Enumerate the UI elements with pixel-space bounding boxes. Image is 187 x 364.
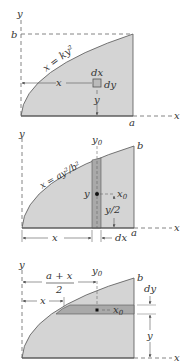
y-label: y <box>83 188 90 199</box>
dx-label: dx <box>115 232 127 243</box>
b-label: b <box>137 140 143 151</box>
y-half-label: y/2 <box>104 204 120 215</box>
y-axis-label: y <box>18 128 25 139</box>
element-dxdy <box>93 79 101 87</box>
shaded-area <box>21 34 133 116</box>
y0-label: y0 <box>91 265 103 278</box>
dx-label: dx <box>91 67 103 78</box>
panel-1: y b a x x = ky² x dx dy y <box>11 8 180 128</box>
panel-3: y a + x 2 y0 b dy x x0 y x <box>18 259 180 363</box>
a-label: a <box>129 117 135 128</box>
y-axis-label: y <box>18 259 25 270</box>
a-label: a <box>131 227 137 238</box>
shaded-area <box>22 146 134 228</box>
shaded-area <box>22 278 134 358</box>
panel-2: y y0 b x = ay²/b² y x0 y/2 a x x dx <box>18 128 180 243</box>
diagram-canvas: y b a x x = ky² x dx dy y y y0 b x = ay²… <box>0 0 187 364</box>
b-label: b <box>137 272 143 283</box>
b-label: b <box>11 29 17 40</box>
centroid-dot <box>95 192 99 196</box>
y-label: y <box>146 330 153 341</box>
y0-label: y0 <box>91 134 103 147</box>
y-label: y <box>93 94 100 105</box>
x-axis-label: x <box>174 222 180 233</box>
two-label: 2 <box>55 284 62 295</box>
x-label: x <box>52 232 58 243</box>
x-label: x <box>40 295 46 306</box>
x-axis-label: x <box>174 110 180 121</box>
x-axis-label: x <box>174 352 180 363</box>
a-plus-x-label: a + x <box>46 270 73 281</box>
y-axis-label: y <box>16 8 23 19</box>
dy-label: dy <box>104 79 116 90</box>
x-label: x <box>56 77 62 88</box>
dy-label: dy <box>144 283 156 294</box>
centroid-dot <box>96 309 99 312</box>
